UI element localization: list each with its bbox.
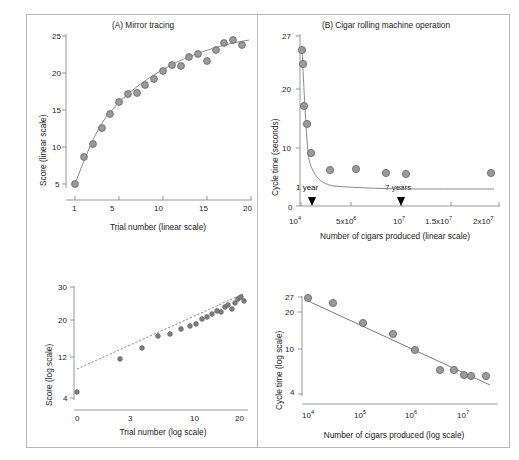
panel-divider xyxy=(257,14,258,448)
tick-x-1e6: 106 xyxy=(405,409,417,420)
panel-a-log-xlabel: Trial number (log scale) xyxy=(78,427,248,437)
tick-x-1e7: 107 xyxy=(393,215,405,226)
tick-x-1e7: 107 xyxy=(457,409,469,420)
tick-x-1e5: 105 xyxy=(354,409,366,420)
tick-x-1e4: 104 xyxy=(302,409,314,420)
tick-x-1p5e7: 1.5x107 xyxy=(425,215,452,226)
panel-b-log-plot xyxy=(262,268,510,408)
panel-a-linear-plot xyxy=(30,18,256,218)
panel-a-log: Score (log scale) Trial number (log scal… xyxy=(30,262,256,452)
tick-x-1e4: 104 xyxy=(289,215,301,226)
panel-b-log-xlabel: Number of cigars produced (log scale) xyxy=(294,430,494,440)
panel-b-linear: (B) Cigar rolling machine operation Cycl… xyxy=(262,18,510,250)
panel-b-linear-xlabel: Number of cigars produced (linear scale) xyxy=(290,231,500,241)
panel-b-linear-plot xyxy=(262,18,510,214)
panel-a-linear: (A) Mirror tracing Score (linear scale) … xyxy=(30,18,256,240)
panel-a-log-plot xyxy=(30,262,256,427)
tick-x-2e7: 2x107 xyxy=(473,215,493,226)
arrow-1-year-icon xyxy=(308,197,316,206)
tick-x-5e6: 5x106 xyxy=(336,215,356,226)
figure-container: (A) Mirror tracing Score (linear scale) … xyxy=(0,0,519,460)
panel-b-log: Cycle time (log scale) Number of cigars … xyxy=(262,268,510,452)
panel-a-linear-xlabel: Trial number (linear scale) xyxy=(68,222,248,232)
arrow-7-years-icon xyxy=(397,197,405,206)
